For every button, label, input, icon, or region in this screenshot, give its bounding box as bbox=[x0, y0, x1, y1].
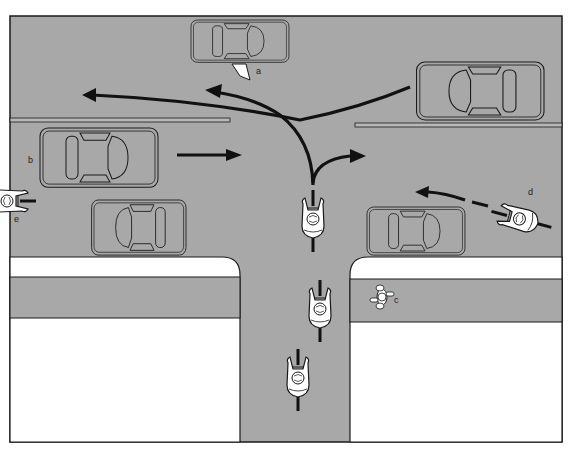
sidewalk-block-right bbox=[350, 257, 562, 442]
lane-divider-left bbox=[10, 118, 230, 122]
label-e: e bbox=[14, 214, 19, 224]
label-a: a bbox=[256, 66, 261, 76]
label-b: b bbox=[28, 155, 33, 165]
label-c: c bbox=[394, 295, 399, 305]
label-d: d bbox=[528, 187, 533, 197]
sidewalk-block-left bbox=[10, 257, 240, 442]
lane-divider-right bbox=[355, 123, 562, 127]
intersection-diagram: a b d e bbox=[0, 0, 575, 449]
